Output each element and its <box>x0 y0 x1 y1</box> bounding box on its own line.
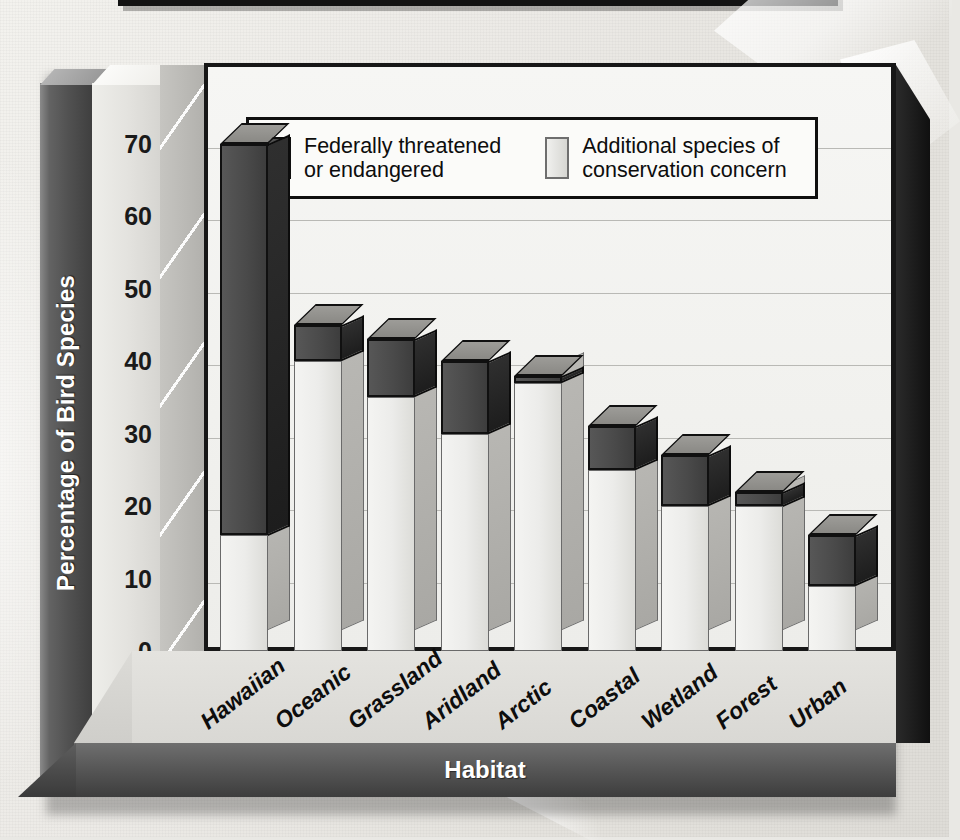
bar-segment-conservation-concern[interactable] <box>220 535 268 651</box>
bar-segment-conservation-concern[interactable] <box>808 586 856 651</box>
legend-swatch-light <box>545 137 569 179</box>
gridline <box>208 220 891 221</box>
bar-segment-threatened-endangered[interactable] <box>661 455 709 506</box>
y-axis-tick-label: 10 <box>94 564 152 593</box>
bar-column[interactable] <box>588 426 636 651</box>
x-axis-title: Habitat <box>74 743 896 797</box>
legend-label-line1: Additional species of <box>582 134 786 158</box>
y-axis-title: Percentage of Bird Species <box>40 83 92 783</box>
bar-segment-threatened-endangered[interactable] <box>514 376 562 383</box>
y-axis-tick-label: 60 <box>94 202 152 231</box>
gridline <box>208 293 891 294</box>
bar-segment-conservation-concern[interactable] <box>661 506 709 651</box>
bar-column[interactable] <box>367 339 415 651</box>
bar-side-face-dark <box>856 525 878 586</box>
page-top-black-bar <box>118 0 838 6</box>
bar-segment-conservation-concern[interactable] <box>294 361 342 651</box>
legend-label-line2: or endangered <box>304 158 501 182</box>
bar-column[interactable] <box>661 455 709 651</box>
bar-side-face-dark <box>709 445 731 506</box>
bar-segment-conservation-concern[interactable] <box>588 470 636 651</box>
bar-column[interactable] <box>514 376 562 652</box>
legend-label-line2: conservation concern <box>582 158 786 182</box>
bar-segment-threatened-endangered[interactable] <box>735 492 783 507</box>
bar-segment-conservation-concern[interactable] <box>514 383 562 651</box>
chart-right-edge <box>896 65 930 743</box>
bar-segment-threatened-endangered[interactable] <box>441 361 489 434</box>
bar-column[interactable] <box>220 144 268 652</box>
bar-column[interactable] <box>441 361 489 651</box>
y-axis-tick-label: 50 <box>94 274 152 303</box>
y-axis-tick-label: 40 <box>94 347 152 376</box>
bar-column[interactable] <box>294 325 342 651</box>
bar-segment-threatened-endangered[interactable] <box>588 426 636 470</box>
bar-segment-threatened-endangered[interactable] <box>367 339 415 397</box>
bar-side-face-dark <box>489 351 511 433</box>
bar-segment-conservation-concern[interactable] <box>367 397 415 651</box>
legend-label: Federally threatenedor endangered <box>304 134 501 182</box>
bar-segment-threatened-endangered[interactable] <box>808 535 856 586</box>
bar-column[interactable] <box>735 492 783 652</box>
bar-side-face-light <box>562 352 584 630</box>
bar-side-face-dark <box>268 134 290 535</box>
legend-label-line1: Federally threatened <box>304 134 501 158</box>
chart-legend: Federally threatenedor endangeredAdditio… <box>246 117 818 199</box>
y-axis-title-band: Percentage of Bird Species <box>40 83 92 783</box>
legend-item[interactable]: Additional species ofconservation concer… <box>545 134 786 182</box>
bar-side-face-light <box>342 330 364 630</box>
bar-segment-threatened-endangered[interactable] <box>220 144 268 536</box>
bar-side-face-light <box>489 403 511 630</box>
legend-item[interactable]: Federally threatenedor endangered <box>267 134 501 182</box>
bar-segment-threatened-endangered[interactable] <box>294 325 342 361</box>
bar-segment-conservation-concern[interactable] <box>735 506 783 651</box>
bar-side-face-dark <box>415 329 437 397</box>
bar-column[interactable] <box>808 535 856 651</box>
bar-segment-conservation-concern[interactable] <box>441 434 489 652</box>
y-axis-tick-label: 70 <box>94 129 152 158</box>
bar-side-face-light <box>415 366 437 630</box>
y-axis-tick-label: 30 <box>94 419 152 448</box>
legend-label: Additional species ofconservation concer… <box>582 134 786 182</box>
bar-chart: Percentage of Bird Species 0102030405060… <box>18 35 930 817</box>
y-axis-tick-label: 20 <box>94 492 152 521</box>
